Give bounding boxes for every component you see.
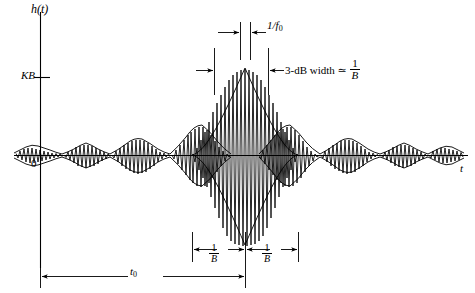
three-db-fraction: 1 B (350, 58, 361, 81)
null-width-right-annotation: 1 B (262, 243, 272, 264)
pulse-waveform-figure: h(t) KB 0 t 1/f0 3-dB width ≃ 1 B 1 B 1 … (0, 0, 475, 293)
delay-subscript: 0 (133, 270, 137, 279)
carrier-oscillation (16, 69, 463, 246)
waveform-group (14, 68, 464, 246)
waveform-svg (0, 0, 475, 293)
null-left-denominator: B (209, 254, 219, 264)
y-axis-tick-label: KB (21, 70, 35, 81)
carrier-period-annotation: 1/f0 (267, 20, 283, 33)
carrier-period-subscript: 0 (279, 24, 283, 33)
three-db-width-annotation: 3-dB width ≃ 1 B (285, 58, 360, 81)
null-left-fraction: 1 B (209, 243, 219, 264)
delay-annotation: t0 (130, 266, 137, 279)
y-axis-label: h(t) (31, 3, 48, 15)
x-axis-label: t (460, 163, 463, 174)
axis-group (14, 12, 468, 268)
null-width-left-annotation: 1 B (209, 243, 219, 264)
three-db-denominator: B (350, 70, 361, 81)
null-right-fraction: 1 B (262, 243, 272, 264)
three-db-width-text: 3-dB width ≃ (285, 64, 347, 76)
carrier-period-text: 1/f (267, 19, 279, 31)
origin-label: 0 (31, 158, 37, 169)
null-right-denominator: B (262, 254, 272, 264)
